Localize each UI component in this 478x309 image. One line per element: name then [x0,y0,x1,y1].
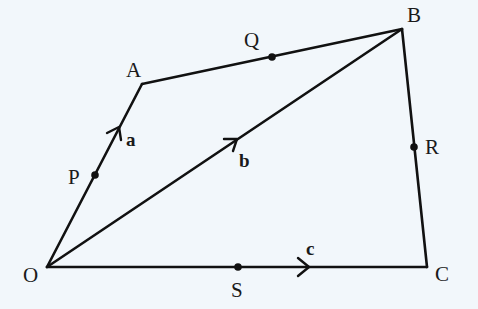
point-Q [268,53,276,61]
vertex-label-B: B [407,3,421,27]
point-label-R: R [425,135,439,159]
vertex-label-C: C [435,262,449,286]
segment-OB [47,29,402,267]
vector-label-c: c [306,238,314,259]
vertex-label-O: O [23,263,38,287]
point-R [410,143,418,151]
point-label-P: P [68,165,80,189]
point-S [234,263,242,271]
point-P [91,171,99,179]
vector-label-a: a [126,129,136,150]
vector-label-b: b [239,150,250,171]
point-label-S: S [231,278,243,302]
point-label-Q: Q [244,28,259,52]
quadrilateral-diagram: O A B C P Q R S a b c [0,0,478,309]
vertex-label-A: A [126,58,142,82]
